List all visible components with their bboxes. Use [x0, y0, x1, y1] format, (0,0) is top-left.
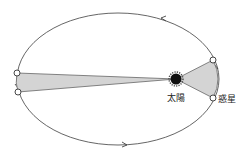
planet-left-upper — [14, 70, 20, 76]
sector-aphelion — [16, 73, 176, 92]
planet-right-lower — [210, 95, 216, 101]
kepler-diagram: 太陽 惑星 — [0, 0, 247, 160]
sun-label: 太陽 — [167, 92, 185, 103]
planet-left-lower — [15, 89, 21, 95]
planet-label: 惑星 — [218, 93, 236, 104]
planet-right-upper — [210, 57, 216, 63]
sun-icon — [169, 72, 183, 86]
